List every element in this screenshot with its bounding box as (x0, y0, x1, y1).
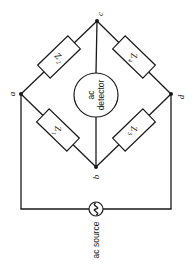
node-c-dot (95, 19, 99, 23)
node-a-dot (19, 92, 23, 96)
detector-label-line2: detector (96, 79, 106, 110)
ac-detector: ac detector (74, 73, 118, 117)
bridge-circuit-diagram: Z 2 Z 4 Z 1 Z 3 ac detector (0, 0, 194, 267)
node-c-label: c (95, 12, 105, 16)
node-b-dot (94, 165, 98, 169)
impedance-z1: Z 1 (37, 109, 80, 151)
node-a-label: a (7, 91, 17, 96)
node-b-label: b (91, 174, 101, 179)
svg-text:1: 1 (51, 132, 57, 135)
svg-text:3: 3 (127, 131, 133, 135)
ac-source: ac source (89, 202, 103, 258)
impedance-z4: Z 4 (113, 36, 156, 78)
node-d-dot (169, 92, 173, 96)
wire-c-detector (96, 21, 97, 73)
impedance-z3: Z 3 (113, 109, 156, 151)
source-label: ac source (91, 221, 101, 258)
wire-source-d (103, 94, 171, 209)
impedance-z2: Z 2 (38, 36, 81, 78)
wire-a-source (21, 94, 89, 209)
svg-text:4: 4 (127, 59, 133, 62)
node-d-label: d (176, 94, 186, 99)
detector-label-line1: ac (86, 90, 96, 100)
